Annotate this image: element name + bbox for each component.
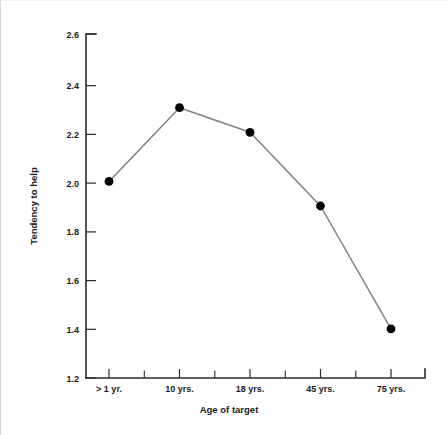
plot-area-background bbox=[86, 34, 425, 378]
y-tick-label: 1.6 bbox=[66, 276, 79, 286]
x-tick-label: 75 yrs. bbox=[377, 384, 406, 394]
y-tick-label: 2.2 bbox=[66, 130, 79, 140]
y-axis-tick-labels: 1.2 1.4 1.6 1.8 2.0 2.2 2.4 2.6 bbox=[66, 30, 79, 384]
x-axis-tick-labels: > 1 yr. 10 yrs. 18 yrs. 45 yrs. 75 yrs. bbox=[96, 384, 405, 394]
data-point bbox=[175, 103, 184, 112]
data-point bbox=[316, 202, 325, 211]
x-tick-label: 45 yrs. bbox=[306, 384, 335, 394]
y-axis-title: Tendency to help bbox=[28, 167, 39, 245]
y-tick-label: 1.2 bbox=[66, 374, 79, 384]
y-tick-label: 2.6 bbox=[66, 30, 79, 40]
x-axis-title: Age of target bbox=[200, 404, 259, 415]
data-point bbox=[246, 128, 255, 137]
y-tick-label: 2.0 bbox=[66, 179, 79, 189]
data-point bbox=[387, 324, 396, 333]
y-tick-label: 1.8 bbox=[66, 227, 79, 237]
x-tick-label: 10 yrs. bbox=[165, 384, 194, 394]
y-tick-label: 2.4 bbox=[66, 81, 79, 91]
x-tick-label: > 1 yr. bbox=[96, 384, 122, 394]
line-chart: 1.2 1.4 1.6 1.8 2.0 2.2 2.4 2.6 > 1 yr. … bbox=[1, 1, 447, 435]
data-point bbox=[105, 177, 114, 186]
y-tick-label: 1.4 bbox=[66, 325, 79, 335]
chart-figure: 1.2 1.4 1.6 1.8 2.0 2.2 2.4 2.6 > 1 yr. … bbox=[0, 0, 447, 435]
x-tick-label: 18 yrs. bbox=[236, 384, 265, 394]
